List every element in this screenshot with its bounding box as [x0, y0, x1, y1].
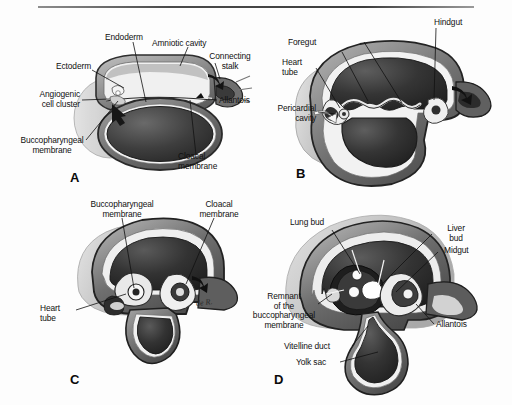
label-midgut: Midgut [444, 246, 469, 256]
panel-c: Buccopharyngeal membrane Cloacal membran… [0, 196, 256, 405]
panel-d: Lung bud Liver bud Midgut Remnant of the… [256, 196, 512, 405]
panel-letter-b: B [296, 166, 305, 181]
label-endoderm: Endoderm [105, 33, 143, 43]
label-hindgut: Hindgut [434, 18, 462, 28]
artist-signature: de R. [196, 297, 213, 308]
label-yolk-sac: Yolk sac [296, 358, 326, 368]
panel-letter-c: C [70, 372, 79, 387]
label-connecting-stalk: Connecting stalk [205, 52, 255, 71]
panel-a: Endoderm Amniotic cavity Ectoderm Connec… [0, 0, 256, 200]
label-angiogenic-cell-cluster: Angiogenic cell cluster [0, 90, 80, 109]
label-amniotic-cavity: Amniotic cavity [152, 39, 206, 49]
label-remnant-of-buccopharyngeal-membrane: Remnant of the buccopharyngeal membrane [248, 292, 320, 330]
label-foregut: Foregut [288, 38, 316, 48]
panel-b-drawing [256, 0, 512, 200]
label-liver-bud: Liver bud [438, 224, 474, 243]
panel-letter-d: D [274, 372, 283, 387]
label-lung-bud: Lung bud [290, 218, 324, 228]
label-allantois: Allantois [436, 320, 467, 330]
figure-root: Endoderm Amniotic cavity Ectoderm Connec… [0, 0, 512, 405]
label-ectoderm: Ectoderm [56, 62, 91, 72]
panel-c-drawing [0, 196, 256, 405]
label-buccopharyngeal-membrane: Buccopharyngeal membrane [12, 136, 92, 155]
label-cloacal-membrane: Cloacal membrane [178, 152, 217, 171]
label-buccopharyngeal-membrane: Buccopharyngeal membrane [62, 200, 182, 219]
label-vitelline-duct: Vitelline duct [284, 342, 330, 352]
label-heart-tube: Heart tube [40, 304, 60, 323]
label-pericardial-cavity: Pericardial cavity [240, 104, 316, 123]
label-heart-tube: Heart tube [282, 58, 302, 77]
label-cloacal-membrane: Cloacal membrane [186, 200, 252, 219]
panel-b: Hindgut Foregut Heart tube Pericardial c… [256, 0, 512, 200]
panel-letter-a: A [70, 170, 79, 185]
